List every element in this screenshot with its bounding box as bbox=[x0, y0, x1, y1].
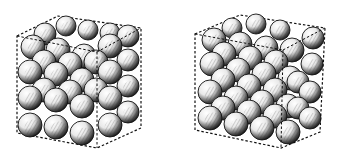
sphere-packing-diagram bbox=[0, 0, 342, 157]
sphere-shading bbox=[123, 31, 138, 46]
sphere-shading bbox=[51, 95, 68, 112]
sphere-shading bbox=[123, 107, 138, 122]
sphere-shading bbox=[231, 119, 248, 136]
sphere-shading bbox=[84, 26, 98, 40]
sphere-shading bbox=[25, 93, 42, 110]
sphere-shading bbox=[62, 22, 76, 36]
figure bbox=[0, 0, 342, 157]
sphere-shading bbox=[252, 20, 266, 34]
sphere-shading bbox=[308, 33, 323, 48]
sphere-shading bbox=[123, 81, 138, 96]
sphere-shading bbox=[25, 120, 42, 137]
sphere-shading bbox=[257, 123, 274, 140]
sphere-shading bbox=[205, 113, 222, 130]
sphere-shading bbox=[307, 59, 322, 74]
sphere-shading bbox=[105, 120, 122, 137]
sphere-shading bbox=[77, 101, 94, 118]
sphere-shading bbox=[123, 55, 138, 70]
sphere-shading bbox=[305, 113, 320, 128]
sphere-shading bbox=[276, 26, 290, 40]
sphere-shading bbox=[51, 122, 68, 139]
sphere-shading bbox=[305, 87, 320, 102]
cube-right bbox=[195, 14, 325, 148]
sphere-shading bbox=[283, 127, 300, 144]
cube-left bbox=[17, 16, 141, 148]
sphere-shading bbox=[77, 128, 94, 145]
